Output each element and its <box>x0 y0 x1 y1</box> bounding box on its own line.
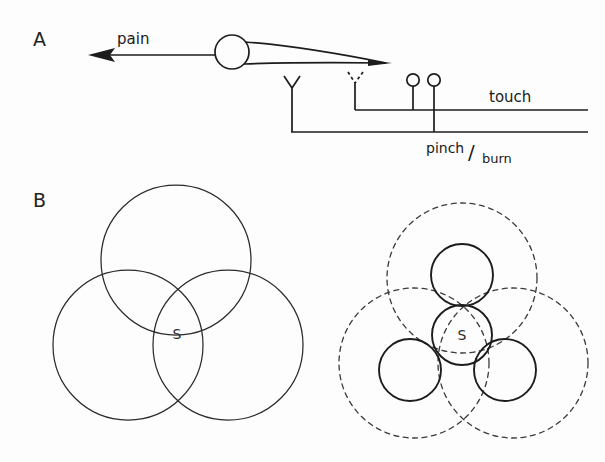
field-bottom-left <box>53 270 203 420</box>
neuron-axon-tip <box>368 60 392 66</box>
right-diagram-center-label: S <box>458 327 467 343</box>
field-top <box>101 185 251 335</box>
left-diagram-center-label: S <box>173 326 182 342</box>
figure-canvas: A pain <box>0 0 605 462</box>
pinch-label: pinch <box>426 140 464 156</box>
neuron-axon-lower <box>244 63 386 64</box>
y-fork-right-branch <box>292 76 300 88</box>
unit-bottom-left <box>379 339 441 401</box>
neuron-soma <box>215 35 249 69</box>
y-fork-left-branch-dashed <box>348 72 355 83</box>
panel-b-letter: B <box>33 189 47 211</box>
field-bottom-right <box>153 270 303 420</box>
dashed-field-bottom-left <box>339 288 489 438</box>
burn-label: burn <box>482 151 512 166</box>
figure-root: A pain <box>0 0 605 462</box>
dashed-field-bottom-right <box>438 288 588 438</box>
touch-label: touch <box>489 88 531 106</box>
free-nerve-ending-dashed <box>348 72 363 110</box>
neuron-axon-upper <box>245 42 386 63</box>
bulb-circle-right <box>428 74 440 86</box>
encapsulated-ending-left <box>407 74 419 110</box>
unit-top <box>431 244 493 306</box>
convergent-receptive-fields: S <box>339 203 588 438</box>
bulb-circle-left <box>407 74 419 86</box>
encapsulated-ending-right <box>428 74 440 132</box>
panel-a-letter: A <box>33 28 47 50</box>
unit-bottom-right <box>474 339 536 401</box>
fraction-slash: / <box>468 140 475 164</box>
panel-b: B S S <box>33 185 588 438</box>
y-fork-right-branch-dashed <box>355 72 363 83</box>
pain-label: pain <box>117 30 149 48</box>
free-nerve-ending-solid <box>284 76 300 132</box>
overlapping-receptive-fields: S <box>53 185 303 420</box>
pinch-burn-label: pinch / burn <box>426 140 512 166</box>
panel-a: A pain <box>33 28 588 166</box>
y-fork-left-branch <box>284 76 292 88</box>
